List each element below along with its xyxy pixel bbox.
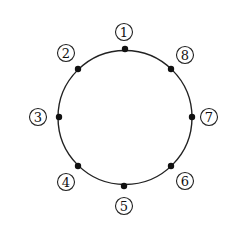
point-dot: [168, 66, 174, 72]
point-4: 4: [58, 163, 82, 191]
point-dot: [121, 183, 127, 189]
point-dot: [56, 114, 62, 120]
point-label: 4: [62, 175, 70, 190]
points-layer: 12345678: [30, 24, 218, 215]
point-label: 3: [34, 110, 42, 125]
point-7: 7: [189, 109, 218, 126]
point-3: 3: [30, 109, 63, 126]
point-label: 6: [181, 174, 189, 189]
point-dot: [168, 163, 174, 169]
point-5: 5: [116, 183, 133, 215]
point-2: 2: [58, 45, 82, 73]
point-8: 8: [168, 47, 194, 73]
point-label: 5: [120, 199, 128, 214]
point-label: 2: [62, 46, 70, 61]
point-1: 1: [116, 24, 133, 53]
point-dot: [189, 114, 195, 120]
point-label: 8: [181, 48, 189, 63]
point-dot: [75, 163, 81, 169]
point-dot: [122, 46, 128, 52]
point-label: 7: [205, 110, 213, 125]
point-label: 1: [120, 25, 128, 40]
point-6: 6: [168, 163, 194, 190]
point-dot: [75, 66, 81, 72]
circle-diagram: 12345678: [0, 0, 238, 234]
